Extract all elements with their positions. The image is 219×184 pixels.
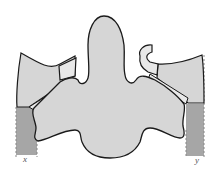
central-body [33,16,185,158]
label-y: y [194,155,199,165]
label-x: x [22,154,27,164]
diagram: x y [0,0,219,184]
right-bridge [140,45,158,75]
